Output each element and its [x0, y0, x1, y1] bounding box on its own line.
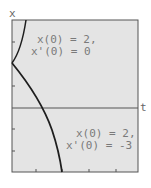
annotation-1-line-2: x'(0) = 0: [31, 45, 91, 58]
y-axis-label: x: [9, 7, 16, 20]
annotation-2-line-2: x'(0) = -3: [66, 139, 132, 152]
x-axis-label: t: [140, 101, 147, 114]
solution-curves-plot: x t x(0) = 2, x'(0) = 0 x(0) = 2, x'(0) …: [0, 0, 151, 188]
